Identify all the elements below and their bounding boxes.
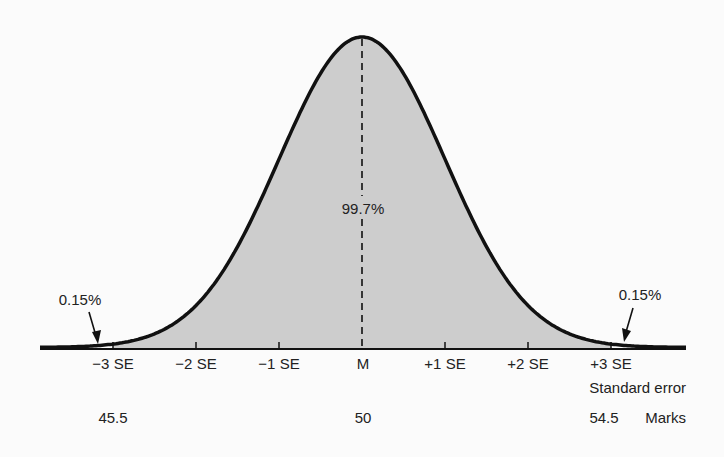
center-percentage-label: 99.7% [342, 200, 385, 217]
left-tail-arrow-icon [89, 312, 101, 344]
mark-mid: 50 [355, 409, 372, 426]
right-tail-arrow-icon [622, 308, 633, 342]
tick-label-minus2: −2 SE [175, 355, 216, 372]
right-tail-label: 0.15% [619, 286, 662, 303]
tick-label-mean: M [357, 355, 370, 372]
normal-distribution-chart: 99.7% 0.15% 0.15% −3 SE −2 SE −1 SE M +1… [0, 0, 724, 457]
tick-label-plus1: +1 SE [424, 355, 465, 372]
tick-label-minus3: −3 SE [92, 355, 133, 372]
tick-label-plus2: +2 SE [507, 355, 548, 372]
mark-high: 54.5 [589, 409, 618, 426]
shaded-area-99-7 [113, 37, 611, 349]
axis-title-standard-error: Standard error [589, 379, 686, 396]
tick-labels: −3 SE −2 SE −1 SE M +1 SE +2 SE +3 SE [92, 355, 631, 372]
tick-label-minus1: −1 SE [258, 355, 299, 372]
tick-label-plus3: +3 SE [590, 355, 631, 372]
left-tail-label: 0.15% [59, 291, 102, 308]
mark-low: 45.5 [98, 409, 127, 426]
axis-title-marks: Marks [645, 409, 686, 426]
